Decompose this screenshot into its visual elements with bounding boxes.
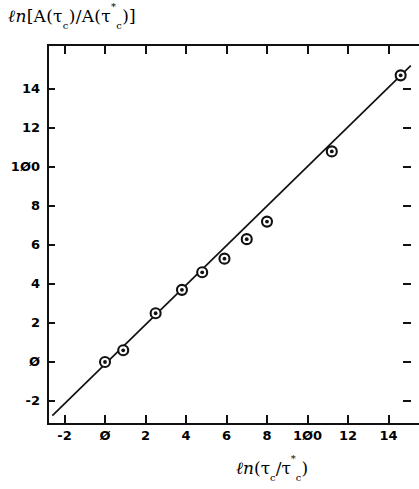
data-point <box>219 254 229 264</box>
data-point <box>197 267 207 277</box>
data-point <box>177 285 187 295</box>
data-point <box>100 357 110 367</box>
data-point <box>262 217 272 227</box>
data-point <box>151 308 161 318</box>
data-point <box>242 234 252 244</box>
data-point <box>118 345 128 355</box>
data-point <box>327 146 337 156</box>
data-point <box>396 70 406 80</box>
